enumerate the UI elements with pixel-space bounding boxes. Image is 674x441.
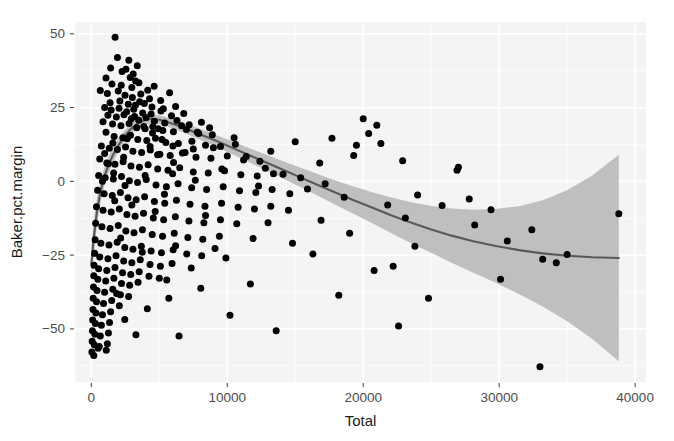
y-tick-label: 25 bbox=[50, 100, 65, 115]
y-axis-title: Baker.pct.margin bbox=[8, 146, 25, 259]
y-tick-label: −50 bbox=[42, 321, 65, 336]
x-tick-label: 10000 bbox=[208, 390, 246, 405]
x-tick-label: 40000 bbox=[616, 390, 654, 405]
x-axis-title: Total bbox=[345, 412, 377, 429]
chart-root: 010000200003000040000 −50−2502550 Total … bbox=[0, 0, 674, 441]
y-tick-label: 50 bbox=[50, 26, 65, 41]
x-tick-label: 0 bbox=[88, 390, 96, 405]
y-tick-label: 0 bbox=[57, 174, 65, 189]
scatter-plot: 010000200003000040000 −50−2502550 Total … bbox=[0, 0, 674, 441]
x-tick-label: 20000 bbox=[344, 390, 382, 405]
x-tick-label: 30000 bbox=[480, 390, 518, 405]
y-tick-label: −25 bbox=[42, 248, 65, 263]
